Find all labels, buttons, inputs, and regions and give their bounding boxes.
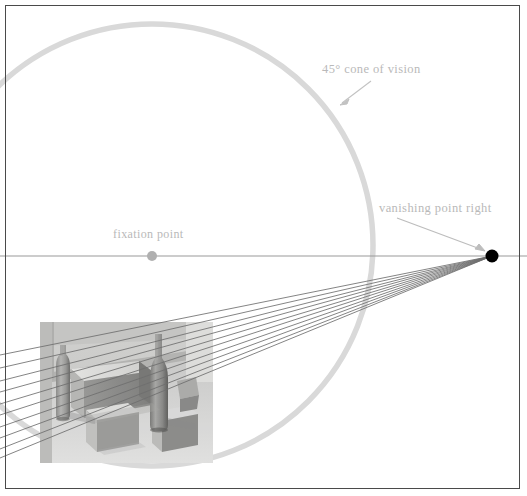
still-life-photo [40, 322, 213, 463]
diagram-canvas [0, 0, 527, 496]
vanishing-point-arrow-icon [397, 218, 485, 251]
fixation-point-dot [147, 251, 157, 261]
vanishing-point-right-label: vanishing point right [379, 201, 492, 216]
cone-of-vision-label: 45° cone of vision [322, 62, 421, 77]
fixation-point-label: fixation point [113, 227, 184, 242]
vanishing-point-dot [486, 250, 499, 263]
cone-arrow-icon [340, 81, 371, 105]
perspective-diagram: 45° cone of vision vanishing point right… [0, 0, 527, 496]
